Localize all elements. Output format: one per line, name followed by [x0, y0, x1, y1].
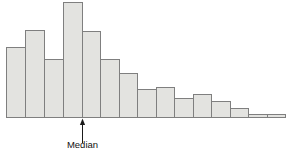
- median-annotation: Median: [67, 119, 98, 151]
- histogram-bar: [101, 60, 120, 118]
- histogram-bar: [138, 90, 157, 118]
- histogram-bar: [26, 31, 45, 118]
- histogram-bar: [231, 109, 249, 118]
- histogram-bar: [212, 102, 231, 118]
- histogram-bar: [194, 95, 212, 118]
- histogram-bar: [120, 74, 138, 118]
- histogram-figure: Median: [0, 0, 287, 151]
- histogram-bars: [7, 3, 286, 118]
- histogram-bar: [45, 60, 64, 118]
- histogram-plot: Median: [0, 0, 287, 151]
- histogram-bar: [64, 3, 83, 118]
- histogram-bar: [7, 48, 26, 118]
- histogram-bar: [83, 32, 101, 118]
- median-label: Median: [67, 139, 98, 150]
- histogram-bar: [175, 99, 194, 118]
- histogram-bar: [157, 88, 175, 118]
- median-arrow-icon: [80, 119, 85, 126]
